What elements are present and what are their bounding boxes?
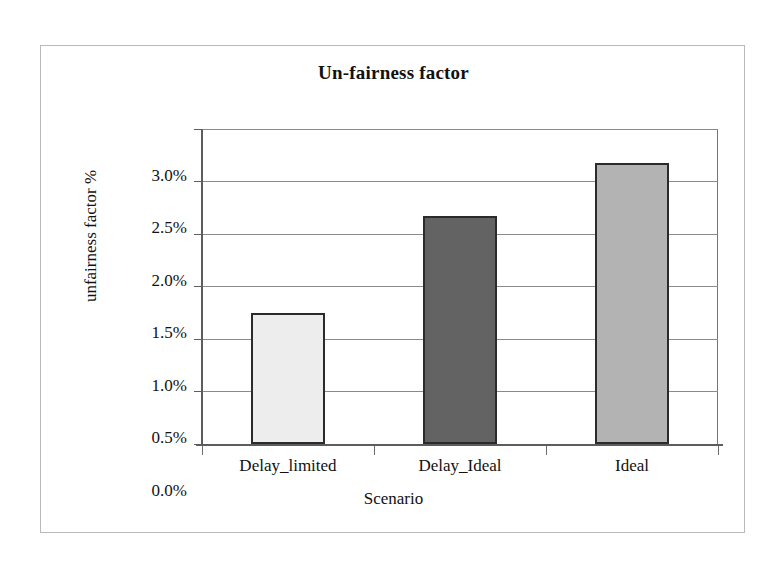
bar-ideal[interactable] (595, 163, 669, 444)
bar-delay-ideal[interactable] (423, 216, 497, 444)
x-tick-mark-0 (202, 446, 203, 455)
y-tick-label-1: 2.5% (125, 219, 187, 236)
plot-area (202, 129, 718, 444)
y-axis-line (201, 129, 203, 446)
y-tick-label-4: 1.0% (125, 377, 187, 394)
y-tick-label-5: 0.5% (125, 429, 187, 446)
y-tick-label-3: 1.5% (125, 324, 187, 341)
y-axis-tick-labels: 3.0% 2.5% 2.0% 1.5% 1.0% 0.5% 0.0% (119, 46, 187, 534)
bar-delay-limited[interactable] (251, 313, 325, 444)
figure-frame: Un-fairness factor unfairness factor % 3… (40, 45, 745, 533)
x-axis-line (196, 444, 723, 446)
y-tick-label-0: 3.0% (125, 167, 187, 184)
x-tick-label-delay-limited: Delay_limited (208, 456, 368, 476)
x-tick-mark-2 (546, 446, 547, 455)
gridline-3-0 (202, 129, 718, 130)
y-tick-label-2: 2.0% (125, 272, 187, 289)
y-axis-title: unfairness factor % (81, 126, 101, 346)
x-tick-label-delay-ideal: Delay_Ideal (380, 456, 540, 476)
x-axis-title: Scenario (41, 489, 746, 509)
x-tick-mark-1 (374, 446, 375, 455)
x-tick-mark-3 (718, 446, 719, 455)
x-tick-label-ideal: Ideal (552, 456, 712, 476)
